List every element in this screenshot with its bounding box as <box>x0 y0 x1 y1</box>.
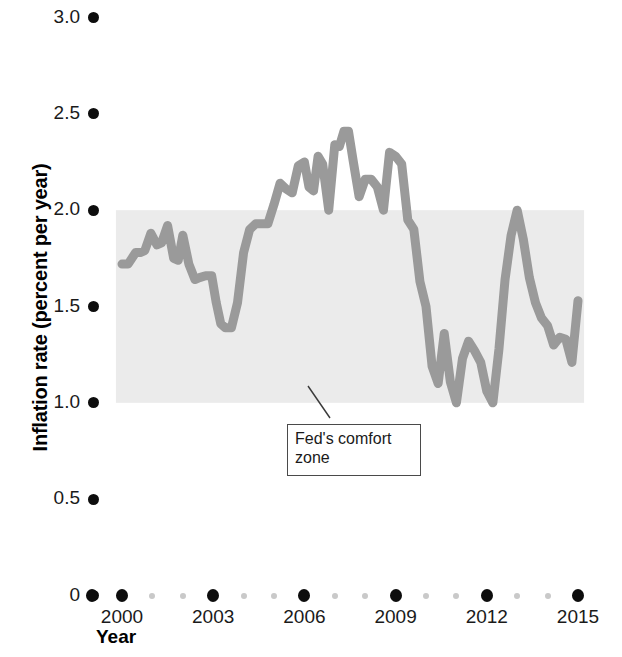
annotation-line-2: zone <box>295 449 413 468</box>
inflation-rate-chart: Inflation rate (percent per year) 00.51.… <box>0 0 622 657</box>
annotation-fed-comfort-zone: Fed's comfort zone <box>287 424 421 476</box>
annotation-line-1: Fed's comfort <box>295 430 413 449</box>
x-axis-title: Year <box>96 626 136 648</box>
plot-area <box>0 0 622 657</box>
